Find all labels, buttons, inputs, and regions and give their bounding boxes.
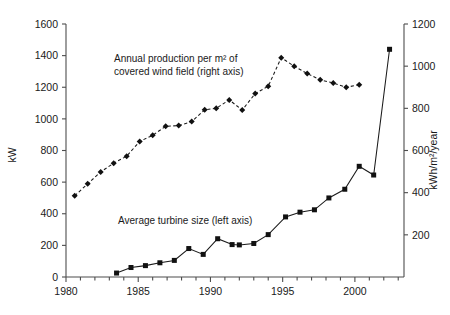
right-axis-title: kWh/m²/year	[427, 130, 439, 190]
data-point-square	[230, 242, 235, 247]
left-axis-title: kW	[6, 147, 18, 162]
left-axis-tick-label: 200	[40, 239, 58, 251]
wind-turbine-chart: 0200400600800100012001400160020040060080…	[0, 0, 450, 315]
x-axis-tick-label: 1995	[271, 285, 295, 297]
data-point-square	[129, 265, 134, 270]
right-axis-tick-label: 800	[412, 102, 430, 114]
data-point-square	[283, 214, 288, 219]
left-axis-tick-label: 800	[40, 144, 58, 156]
data-point-square	[186, 246, 191, 251]
data-point-square	[201, 252, 206, 257]
x-axis-tick-label: 1990	[199, 285, 223, 297]
left-axis-tick-label: 0	[52, 271, 58, 283]
data-point-square	[357, 164, 362, 169]
data-point-square	[387, 47, 392, 52]
right-axis-title-label: kWh/m²/year	[427, 130, 439, 190]
data-point-square	[157, 260, 162, 265]
right-axis-tick-label: 1200	[412, 18, 436, 30]
right-axis-tick-label: 200	[412, 229, 430, 241]
left-axis-tick-label: 1400	[35, 49, 59, 61]
chart-container: 0200400600800100012001400160020040060080…	[0, 0, 450, 315]
x-axis-tick-label: 1980	[54, 285, 78, 297]
data-point-square	[251, 241, 256, 246]
x-axis-tick-label: 1985	[127, 285, 151, 297]
left-axis-title-label: kW	[6, 147, 18, 162]
data-point-square	[172, 258, 177, 263]
data-point-square	[342, 187, 347, 192]
data-point-square	[326, 195, 331, 200]
turbine-annotation-label: Average turbine size (left axis)	[118, 215, 252, 226]
turbine-annotation: Average turbine size (left axis)	[118, 215, 252, 226]
data-point-square	[237, 242, 242, 247]
chart-background	[0, 0, 450, 315]
data-point-square	[312, 207, 317, 212]
data-point-square	[371, 173, 376, 178]
production-annotation-line2: covered wind field (right axis)	[114, 66, 244, 77]
data-point-square	[266, 232, 271, 237]
data-point-square	[143, 263, 148, 268]
left-axis-tick-label: 1000	[35, 113, 59, 125]
data-point-square	[298, 210, 303, 215]
left-axis-tick-label: 1600	[35, 18, 59, 30]
left-axis-tick-label: 600	[40, 176, 58, 188]
right-axis-tick-label: 1000	[412, 60, 436, 72]
data-point-square	[215, 236, 220, 241]
production-annotation-line1: Annual production per m² of	[114, 53, 238, 64]
left-axis-tick-label: 1200	[35, 81, 59, 93]
data-point-square	[114, 271, 119, 276]
left-axis-tick-label: 400	[40, 207, 58, 219]
x-axis-tick-label: 2000	[343, 285, 367, 297]
